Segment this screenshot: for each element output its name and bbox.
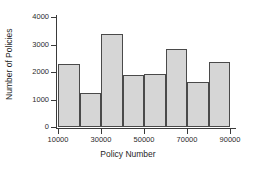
x-tick-label: 70000 [165,136,209,144]
y-axis-label: Number of Policies [5,9,14,119]
y-tick-mark [51,17,57,18]
histogram-bar [144,74,166,127]
x-tick-label: 50000 [122,136,166,144]
histogram-bar [209,62,231,127]
histogram-bar [123,75,145,127]
y-tick-mark [51,45,57,46]
histogram-chart: 01000200030004000 1000030000500007000090… [0,0,256,173]
histogram-bar [101,34,123,127]
y-tick-label: 0 [3,123,49,131]
plot-area [58,17,230,127]
x-tick-mark [101,129,102,134]
y-tick-mark [51,100,57,101]
x-tick-mark [230,129,231,134]
histogram-bar [166,49,188,127]
y-tick-mark [51,72,57,73]
histogram-bar [80,93,102,127]
x-axis-line [56,128,236,129]
x-tick-mark [144,129,145,134]
x-tick-label: 90000 [208,136,252,144]
x-tick-mark [58,129,59,134]
histogram-bar [58,64,80,127]
x-tick-label: 30000 [79,136,123,144]
x-axis-label: Policy Number [0,150,256,159]
x-tick-label: 10000 [36,136,80,144]
y-tick-mark [51,127,57,128]
histogram-bar [187,82,209,127]
x-tick-mark [187,129,188,134]
